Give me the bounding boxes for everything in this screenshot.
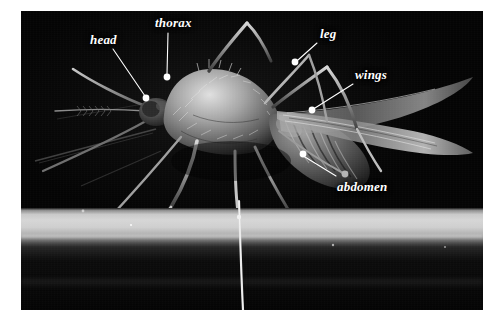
- label-abdomen: abdomen: [337, 180, 388, 193]
- label-head: head: [90, 33, 117, 46]
- label-wings: wings: [355, 68, 387, 81]
- figure-container: head thorax leg wings abdomen: [0, 0, 502, 324]
- label-thorax: thorax: [155, 16, 192, 29]
- label-leg: leg: [320, 27, 336, 40]
- proboscis-through-surface: [21, 11, 483, 310]
- mosquito-photograph: [21, 11, 483, 310]
